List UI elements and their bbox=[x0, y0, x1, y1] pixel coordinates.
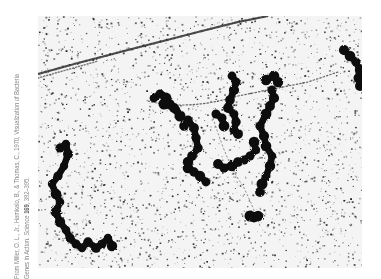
caption-line-1: From Miller, O. L., Jr., Hamkalo, B., & … bbox=[12, 74, 22, 279]
caption-line-2: Genes in Action. Science 169, 392–395. bbox=[22, 177, 32, 279]
micrograph-image bbox=[38, 16, 362, 268]
figure-credit-caption: From Miller, O. L., Jr., Hamkalo, B., & … bbox=[4, 0, 40, 279]
caption-volume: 169 bbox=[22, 204, 31, 214]
polyribosome-chains bbox=[48, 45, 362, 253]
electron-micrograph bbox=[38, 16, 362, 268]
